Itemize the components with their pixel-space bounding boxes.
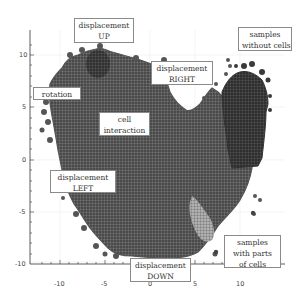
label-rotation: rotation (33, 87, 81, 100)
label-cell-interaction: cell interaction (99, 112, 150, 136)
patch-displacement-up (86, 50, 110, 78)
x-tick-10: 10 (236, 280, 244, 288)
y-tick-10: 10 (19, 51, 27, 59)
y-tick-5: 5 (22, 103, 26, 111)
y-tick-neg10: -10 (15, 260, 26, 268)
label-displacement-right: displacement RIGHT (151, 61, 213, 85)
label-displacement-down: displacement DOWN (130, 258, 191, 282)
y-tick-neg5: -5 (19, 208, 25, 216)
x-tick-neg5: -5 (101, 280, 107, 288)
label-samples-without-cells: samples without cells (238, 27, 292, 51)
label-displacement-up: displacement UP (74, 18, 134, 43)
x-tick-neg10: -10 (54, 280, 65, 288)
cluster-without-cells (222, 71, 268, 168)
label-displacement-left: displacement LEFT (50, 170, 116, 193)
y-tick-0: 0 (22, 156, 26, 164)
label-samples-with-parts-of-cells: samples with parts of cells (224, 235, 281, 268)
x-tick-5: 5 (193, 280, 197, 288)
